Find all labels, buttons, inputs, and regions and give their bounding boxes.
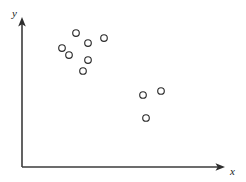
data-point-marker: [59, 45, 66, 52]
scatter-plot-figure: y x: [0, 0, 246, 182]
data-points-group: [59, 30, 165, 122]
data-point-marker: [66, 52, 73, 59]
data-point-marker: [140, 92, 147, 99]
scatter-plot-canvas: y x: [0, 0, 246, 182]
data-point-marker: [101, 35, 108, 42]
data-point-marker: [85, 57, 92, 64]
data-point-marker: [158, 88, 165, 95]
x-axis-label: x: [229, 165, 235, 177]
data-point-marker: [85, 40, 92, 47]
data-point-marker: [80, 68, 87, 75]
data-point-marker: [73, 30, 80, 37]
axes-group: y x: [11, 7, 235, 177]
y-axis-label: y: [11, 7, 17, 19]
data-point-marker: [143, 115, 150, 122]
